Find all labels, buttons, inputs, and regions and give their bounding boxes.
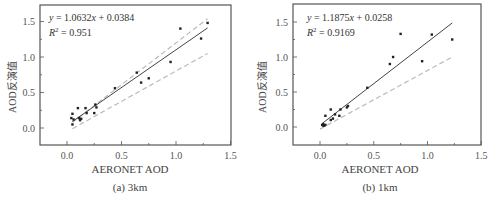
data-point	[140, 81, 142, 83]
data-point	[179, 27, 181, 29]
data-point	[366, 87, 368, 89]
data-point	[392, 56, 394, 58]
chart-panel-1km: 0.00.51.01.50.00.51.01.5 y = 1.1875x + 0…	[245, 0, 489, 202]
x-tick-label: 1.0	[421, 150, 434, 161]
reference-dashed-line	[72, 53, 207, 128]
y-tick-label: 1.5	[23, 16, 36, 27]
eq-intercept: + 0.0258	[354, 12, 392, 23]
data-point	[399, 33, 401, 35]
data-point	[389, 63, 391, 65]
chart-panel-3km: 0.00.51.01.50.00.51.01.5 y = 1.0632x + 0…	[0, 0, 245, 202]
x-axis-label: AERONET AOD	[280, 163, 480, 175]
data-point	[200, 37, 202, 39]
x-tick-label: 1.5	[224, 150, 237, 161]
data-point	[136, 71, 138, 73]
data-point	[324, 115, 326, 117]
y-tick-label: 1.5	[276, 17, 289, 28]
x-tick-label: 0.0	[61, 150, 74, 161]
y-tick-label: 1.0	[23, 52, 36, 63]
eq-slope: = 1.0632	[53, 12, 91, 23]
r2-value: = 0.9169	[317, 27, 355, 38]
data-point	[94, 103, 96, 105]
data-point	[334, 113, 336, 115]
data-point	[114, 87, 116, 89]
x-tick-label: 0.5	[115, 150, 128, 161]
regression-line	[72, 28, 207, 122]
data-point	[421, 60, 423, 62]
regression-equation: y = 1.0632x + 0.0384 R2 = 0.951	[49, 12, 134, 39]
data-point	[330, 119, 332, 121]
data-point	[72, 118, 74, 120]
eq-slope: = 1.1875	[311, 12, 349, 23]
data-point	[77, 107, 79, 109]
data-point	[338, 115, 340, 117]
data-point	[71, 113, 73, 115]
r2-value: = 0.951	[59, 27, 92, 38]
chart-caption: (a) 3km	[30, 181, 230, 193]
x-tick-label: 0.5	[368, 150, 381, 161]
data-point	[451, 38, 453, 40]
data-point	[330, 108, 332, 110]
data-point	[332, 117, 334, 119]
data-point	[70, 117, 72, 119]
y-axis-label: AOD反演值	[4, 61, 19, 113]
data-point	[206, 22, 208, 24]
data-point	[80, 118, 82, 120]
data-point	[71, 123, 73, 125]
y-tick-label: 0.5	[276, 87, 289, 98]
data-point	[339, 108, 341, 110]
data-point	[324, 124, 326, 126]
data-point	[347, 105, 349, 107]
data-point	[148, 77, 150, 79]
reference-dashed-line	[320, 57, 452, 129]
data-point	[84, 107, 86, 109]
y-tick-label: 0.0	[23, 123, 36, 134]
x-tick-label: 0.0	[314, 150, 327, 161]
y-tick-label: 0.0	[276, 122, 289, 133]
data-point	[169, 61, 171, 63]
eq-intercept: + 0.0384	[96, 12, 134, 23]
x-tick-label: 1.0	[170, 150, 183, 161]
data-point	[93, 112, 95, 114]
data-point	[78, 117, 80, 119]
y-axis-label: AOD反演值	[254, 61, 269, 113]
chart-caption: (b) 1km	[280, 181, 480, 193]
y-tick-label: 0.5	[23, 87, 36, 98]
data-point	[431, 33, 433, 35]
y-tick-label: 1.0	[276, 52, 289, 63]
data-point	[95, 106, 97, 108]
x-tick-label: 1.5	[475, 150, 488, 161]
x-axis-label: AERONET AOD	[30, 163, 230, 175]
data-point	[85, 112, 87, 114]
regression-equation: y = 1.1875x + 0.0258 R2 = 0.9169	[307, 12, 392, 39]
